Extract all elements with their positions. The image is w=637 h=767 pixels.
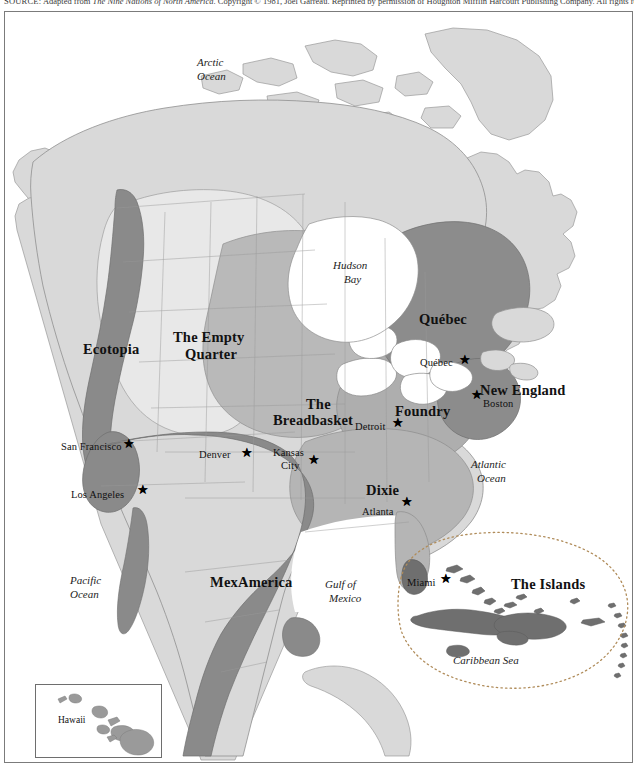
map-frame: Ecotopia The Empty Quarter Québec New En… [4, 11, 633, 763]
city-marker-detroit: ★ [392, 416, 404, 429]
city-label-san-francisco: San Francisco [61, 441, 122, 452]
water-label-atlantic-1: Atlantic [471, 457, 506, 471]
city-marker-denver: ★ [241, 446, 253, 459]
hawaii-inset-label: Hawaii [58, 715, 85, 725]
source-label: SOURCE: [4, 0, 41, 6]
city-label-los-angeles: Los Angeles [71, 489, 124, 500]
water-label-hudson-1: Hudson [333, 258, 367, 272]
hawaii-inset-box: Hawaii [35, 684, 162, 758]
city-label-kansas: Kansas [273, 447, 304, 458]
region-label-empty-quarter-2: Quarter [185, 347, 237, 363]
source-tail: . Copyright © 1981, Joel Garreau. Reprin… [214, 0, 634, 6]
hawaii-islands-map [36, 685, 161, 757]
region-label-ecotopia: Ecotopia [83, 342, 139, 358]
water-label-atlantic-2: Ocean [477, 471, 506, 485]
source-text: Adapted from [41, 0, 92, 6]
city-label-miami: Miami [407, 577, 436, 588]
water-label-pacific-2: Ocean [70, 587, 99, 601]
city-label-kansas-city: City [281, 460, 300, 471]
region-label-new-england: New England [480, 383, 566, 399]
city-marker-atlanta: ★ [401, 495, 413, 508]
region-label-mexamerica: MexAmerica [210, 575, 293, 591]
region-label-dixie: Dixie [366, 483, 399, 499]
water-label-gulf-1: Gulf of [325, 577, 356, 591]
region-label-empty-quarter-1: The Empty [173, 330, 245, 346]
city-label-boston: Boston [483, 398, 513, 409]
city-marker-miami: ★ [440, 572, 452, 585]
region-label-quebec: Québec [419, 312, 467, 328]
water-label-arctic-1: Arctic [197, 55, 223, 69]
water-label-gulf-2: Mexico [329, 591, 361, 605]
region-label-the-islands: The Islands [511, 577, 585, 593]
city-marker-san-francisco: ★ [123, 437, 135, 450]
water-label-pacific-1: Pacific [70, 573, 101, 587]
source-title: The Nine Nations of North America [93, 0, 214, 6]
city-label-denver: Denver [199, 449, 231, 460]
city-marker-quebec: ★ [459, 353, 471, 366]
water-label-caribbean-sea: Caribbean Sea [453, 653, 519, 667]
city-marker-kansas-city: ★ [308, 453, 320, 466]
city-label-quebec: Québec [420, 357, 453, 368]
city-label-atlanta: Atlanta [362, 506, 394, 517]
source-credit: SOURCE: Adapted from The Nine Nations of… [4, 0, 634, 7]
region-label-breadbasket-2: Breadbasket [273, 413, 353, 429]
region-label-breadbasket-1: The [306, 397, 331, 413]
city-marker-boston: ★ [471, 388, 483, 401]
city-marker-los-angeles: ★ [137, 483, 149, 496]
water-label-hudson-2: Bay [344, 272, 361, 286]
map-page: SOURCE: Adapted from The Nine Nations of… [0, 0, 637, 767]
city-label-detroit: Detroit [355, 421, 385, 432]
water-label-arctic-2: Ocean [197, 69, 226, 83]
